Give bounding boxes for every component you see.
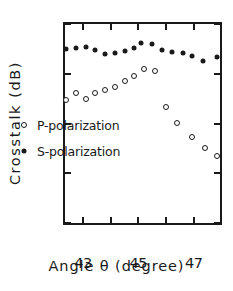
legend-item-p-polarization: P-polarization (18, 112, 120, 138)
x-axis-tick (193, 217, 195, 223)
data-point (92, 90, 98, 96)
data-point (102, 87, 108, 93)
data-point (73, 90, 79, 96)
data-point (174, 120, 180, 126)
data-point (63, 97, 69, 103)
x-axis-tick (137, 217, 139, 223)
data-point (215, 55, 220, 60)
x-axis-tick (165, 217, 167, 223)
y-axis-tick (65, 172, 71, 174)
data-point (122, 78, 128, 84)
chart-legend: P-polarization S-polarization (18, 112, 120, 164)
data-point (83, 45, 88, 50)
y-axis-tick (214, 172, 220, 174)
data-point (152, 68, 158, 74)
data-point (180, 50, 185, 55)
y-axis-tick (214, 73, 220, 75)
data-point (132, 46, 137, 51)
data-point (150, 41, 155, 46)
legend-label-p-polarization: P-polarization (37, 118, 119, 133)
data-point (122, 48, 127, 53)
x-axis-title: Angle θ (degree) (0, 258, 233, 274)
crosstalk-vs-angle-chart: Crosstalk (dB) -40-30-20-100434547 Angle… (0, 0, 233, 291)
data-point (103, 51, 108, 56)
legend-item-s-polarization: S-polarization (18, 138, 120, 164)
x-axis-tick (110, 217, 112, 223)
x-axis-tick (165, 24, 167, 30)
data-point (64, 47, 69, 52)
x-axis-tick (82, 217, 84, 223)
y-axis-tick (65, 73, 71, 75)
x-axis-tick (110, 24, 112, 30)
data-point (189, 134, 195, 140)
data-point (131, 73, 137, 79)
filled-circle-icon (18, 145, 30, 157)
data-point (139, 41, 144, 46)
data-point (112, 51, 117, 56)
data-point (202, 145, 208, 151)
y-axis-tick (214, 222, 220, 224)
y-axis-tick (214, 123, 220, 125)
legend-label-s-polarization: S-polarization (37, 144, 120, 159)
data-point (74, 45, 79, 50)
y-axis-tick (65, 222, 71, 224)
data-point (214, 153, 220, 159)
data-point (93, 48, 98, 53)
data-point (112, 84, 118, 90)
data-point (141, 66, 147, 72)
data-point (169, 49, 174, 54)
data-point (190, 54, 195, 59)
x-axis-tick (193, 24, 195, 30)
y-axis-tick (65, 23, 71, 25)
y-axis-tick (214, 23, 220, 25)
data-point (83, 96, 89, 102)
data-point (163, 104, 169, 110)
data-point (159, 48, 164, 53)
x-axis-tick (82, 24, 84, 30)
data-point (201, 58, 206, 63)
open-circle-icon (18, 119, 30, 131)
x-axis-tick (137, 24, 139, 30)
